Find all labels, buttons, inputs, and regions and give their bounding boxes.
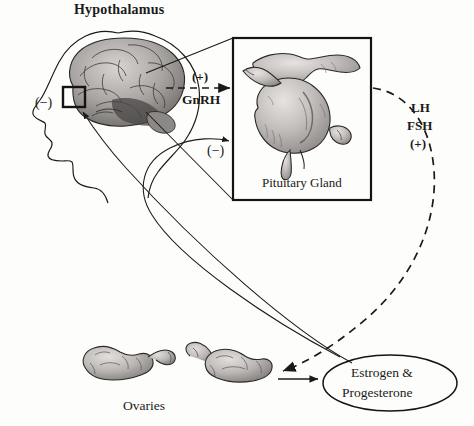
gnrh-label: GnRH [182,92,220,108]
brain-illustration [70,38,185,133]
diagram-canvas: Hypothalamus (−) (+) GnRH (−) Pituitary … [0,0,474,426]
ovaries-illustration [83,342,272,382]
lh-fsh-plus-sign-label: (+) [410,136,426,152]
pituitary-gland-label: Pituitary Gland [262,175,342,191]
fsh-label: FSH [407,118,432,134]
lh-label: LH [411,100,430,116]
negative-sign-hypothalamus-label: (−) [35,95,52,111]
estrogen-label-line2: Progesterone [342,385,412,401]
ovaries-label: Ovaries [123,398,165,414]
hypothalamus-label: Hypothalamus [74,2,164,18]
diagram-vector-layer [0,0,474,426]
estrogen-label-line1: Estrogen & [351,365,413,381]
gnrh-plus-sign-label: (+) [192,69,208,85]
estrogen-progesterone-ellipse [323,355,457,411]
negative-sign-pituitary-label: (−) [207,143,224,159]
